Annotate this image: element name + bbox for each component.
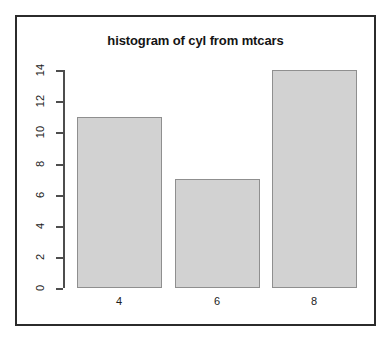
y-axis-label-4-text: 4 (34, 223, 46, 229)
y-axis-label-0-text: 0 (34, 285, 46, 291)
x-axis-label-6: 6 (197, 295, 237, 307)
y-axis-tick-2 (56, 257, 63, 259)
plot-area: histogram of cyl from mtcars 14 12 10 8 … (17, 17, 374, 324)
bar-cyl-8[interactable] (272, 70, 357, 288)
y-axis-tick-14 (56, 70, 63, 72)
y-axis-tick-0 (56, 288, 63, 290)
x-axis-label-4-text: 4 (116, 295, 122, 307)
y-axis-tick-6 (56, 195, 63, 197)
x-axis-label-8: 8 (294, 295, 334, 307)
y-axis-label-14-text: 14 (34, 64, 46, 76)
y-axis-label-12-text: 12 (34, 95, 46, 107)
plot-frame: histogram of cyl from mtcars 14 12 10 8 … (15, 15, 376, 326)
y-axis-label-0: 0 (29, 281, 51, 295)
y-axis-label-2-text: 2 (34, 254, 46, 260)
y-axis-label-4: 4 (29, 219, 51, 233)
y-axis-label-12: 12 (29, 94, 51, 108)
y-axis-label-10: 10 (29, 125, 51, 139)
y-axis-label-8: 8 (29, 157, 51, 171)
y-axis-tick-8 (56, 164, 63, 166)
bar-cyl-6[interactable] (175, 179, 260, 288)
y-axis-label-6-text: 6 (34, 192, 46, 198)
y-axis-label-14: 14 (29, 63, 51, 77)
x-axis-label-6-text: 6 (214, 295, 220, 307)
y-axis-tick-4 (56, 226, 63, 228)
y-axis-label-2: 2 (29, 250, 51, 264)
y-axis-label-8-text: 8 (34, 161, 46, 167)
x-axis-label-4: 4 (99, 295, 139, 307)
y-axis-tick-10 (56, 132, 63, 134)
y-axis-tick-12 (56, 101, 63, 103)
y-axis-line (63, 70, 65, 288)
x-axis-label-8-text: 8 (311, 295, 317, 307)
y-axis-label-10-text: 10 (34, 126, 46, 138)
y-axis-label-6: 6 (29, 188, 51, 202)
chart-title: histogram of cyl from mtcars (17, 33, 374, 48)
bar-cyl-4[interactable] (77, 117, 162, 288)
